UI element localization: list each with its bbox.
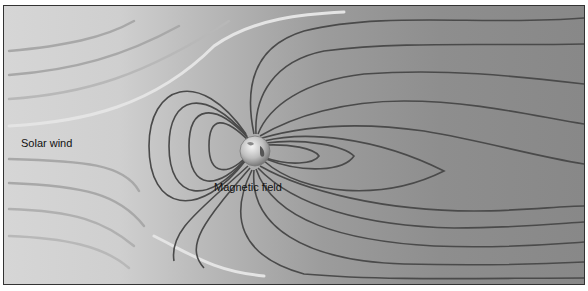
magnetic-field-label: Magnetic field (214, 181, 282, 193)
solar-wind-label: Solar wind (21, 137, 72, 149)
diagram-graphic (4, 6, 584, 284)
earth-icon (240, 136, 270, 166)
magnetosphere-diagram: Solar wind Magnetic field (3, 5, 585, 285)
magnetic-field-lines (149, 18, 584, 279)
